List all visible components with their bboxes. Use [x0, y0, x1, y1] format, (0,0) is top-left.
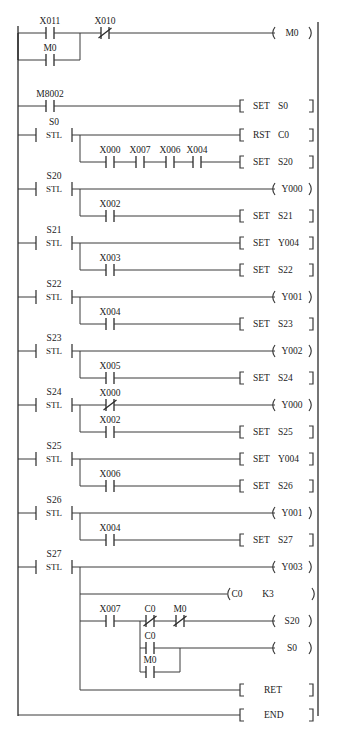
instruction-ret: RET: [264, 685, 282, 695]
stl-instruction-label: STL: [46, 130, 62, 140]
coil-label-Y001: Y001: [281, 292, 302, 302]
contact-label-M8002: M8002: [36, 89, 64, 99]
step-label-S21: S21: [47, 225, 62, 235]
instruction-box-rst-c0[interactable]: [240, 129, 313, 141]
contact-label-M0: M0: [143, 655, 156, 665]
contact-label-C0: C0: [144, 631, 155, 641]
step-label-S22: S22: [47, 279, 62, 289]
step-label-S0: S0: [49, 117, 59, 127]
operand-Y004: Y004: [278, 454, 299, 464]
coil-label-S0: S0: [287, 643, 297, 653]
instruction-box-set-s20[interactable]: [240, 156, 313, 168]
instruction-box-set-s0[interactable]: [240, 100, 313, 112]
contact-c0-no-no[interactable]: [146, 642, 154, 654]
coil-label-Y000: Y000: [281, 184, 302, 194]
stl-instruction-label: STL: [46, 346, 62, 356]
ladder-diagram: X011M0X010M0M8002SETS0STLS0RSTC0X000X007…: [0, 0, 337, 737]
instruction-box-set-s21[interactable]: [240, 210, 313, 222]
operand-S21: S21: [278, 211, 293, 221]
instruction-box-set-y004[interactable]: [240, 237, 313, 249]
contact-label-X006: X006: [159, 145, 180, 155]
contact-x006-no[interactable]: [166, 156, 174, 168]
contact-label-X004: X004: [186, 145, 207, 155]
instruction-box-set-s22[interactable]: [240, 264, 313, 276]
step-label-S24: S24: [47, 387, 62, 397]
contact-x006-no[interactable]: [106, 480, 114, 492]
contact-label-X004: X004: [99, 307, 120, 317]
contact-x004-no[interactable]: [193, 156, 201, 168]
operand-S25: S25: [278, 427, 293, 437]
coil-label-Y000: Y000: [281, 400, 302, 410]
contact-m0-no-no[interactable]: [146, 666, 154, 678]
operand-S24: S24: [278, 373, 293, 383]
stl-instruction-label: STL: [46, 292, 62, 302]
stl-instruction-label: STL: [46, 238, 62, 248]
coil-label-Y001: Y001: [281, 508, 302, 518]
contact-x005-no[interactable]: [106, 372, 114, 384]
operand-S22: S22: [278, 265, 293, 275]
contact-m0-no[interactable]: [46, 54, 54, 66]
operand-S0: S0: [278, 101, 288, 111]
contact-label-X005: X005: [99, 361, 120, 371]
step-label-S26: S26: [47, 495, 62, 505]
contact-x004-no[interactable]: [106, 318, 114, 330]
instruction-set: SET: [253, 454, 270, 464]
contact-x004-no[interactable]: [106, 534, 114, 546]
contact-x000-no[interactable]: [106, 156, 114, 168]
contact-label-X011: X011: [40, 16, 61, 26]
instruction-set: SET: [253, 101, 270, 111]
coil-label-M0: M0: [285, 28, 298, 38]
instruction-set: SET: [253, 481, 270, 491]
contact-label-M0: M0: [43, 43, 56, 53]
stl-instruction-label: STL: [46, 400, 62, 410]
contact-label-X003: X003: [99, 253, 120, 263]
counter-preset-K3: K3: [262, 589, 274, 599]
step-label-S20: S20: [47, 171, 62, 181]
contact-label-C0: C0: [144, 604, 155, 614]
step-label-S25: S25: [47, 441, 62, 451]
contact-label-X006: X006: [99, 469, 120, 479]
instruction-set: SET: [253, 319, 270, 329]
contact-label-X002: X002: [99, 415, 120, 425]
contact-x007-b-no[interactable]: [106, 615, 114, 627]
instruction-box-set-y004[interactable]: [240, 453, 313, 465]
instruction-set: SET: [253, 535, 270, 545]
contact-m8002-no[interactable]: [46, 100, 54, 112]
contact-x003-no[interactable]: [106, 264, 114, 276]
instruction-set: SET: [253, 427, 270, 437]
instruction-set: SET: [253, 373, 270, 383]
contact-x007-no[interactable]: [136, 156, 144, 168]
instruction-box-set-s25[interactable]: [240, 426, 313, 438]
contact-x002-no[interactable]: [106, 426, 114, 438]
stl-instruction-label: STL: [46, 454, 62, 464]
contact-label-X002: X002: [99, 199, 120, 209]
contact-x011-no[interactable]: [46, 27, 54, 39]
operand-C0: C0: [278, 130, 289, 140]
instruction-set: SET: [253, 157, 270, 167]
instruction-box-set-s26[interactable]: [240, 480, 313, 492]
contact-label-X007: X007: [99, 604, 120, 614]
operand-S26: S26: [278, 481, 293, 491]
instruction-set: SET: [253, 238, 270, 248]
instruction-set: SET: [253, 211, 270, 221]
counter-label-C0: C0: [231, 589, 242, 599]
contact-x002-no[interactable]: [106, 210, 114, 222]
contact-label-X007: X007: [129, 145, 150, 155]
stl-instruction-label: STL: [46, 562, 62, 572]
contact-label-M0: M0: [173, 604, 186, 614]
step-label-S23: S23: [47, 333, 62, 343]
operand-Y004: Y004: [278, 238, 299, 248]
contact-label-X000: X000: [99, 145, 120, 155]
instruction-rst: RST: [253, 130, 271, 140]
coil-label-Y002: Y002: [281, 346, 302, 356]
operand-S27: S27: [278, 535, 293, 545]
step-label-S27: S27: [47, 549, 62, 559]
instruction-box-set-s24[interactable]: [240, 372, 313, 384]
contact-label-X000: X000: [99, 388, 120, 398]
operand-S20: S20: [278, 157, 293, 167]
instruction-box-set-s23[interactable]: [240, 318, 313, 330]
contact-label-X010: X010: [94, 16, 115, 26]
instruction-set: SET: [253, 265, 270, 275]
coil-label-S20: S20: [285, 616, 300, 626]
instruction-box-set-s27[interactable]: [240, 534, 313, 546]
